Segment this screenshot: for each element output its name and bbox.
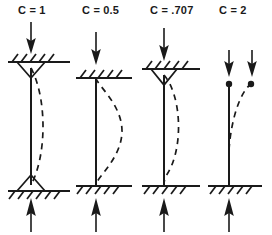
hatch-tick [116,70,122,78]
case-1-top-load-arrow [26,22,36,54]
hatch-tick [153,186,159,194]
case-1-bottom-support-pinned [8,175,70,199]
case-4-top-load-arrow [224,50,234,77]
figure-canvas: C = 1 [0,0,272,235]
hatch-tick [80,70,86,78]
hatch-tick [21,54,27,62]
hatch-tick [113,186,119,194]
column-buckling-figure: C = 1 [0,0,272,235]
hatch-tick [9,191,15,199]
hatch-tick [104,186,110,194]
hatch-tick [77,186,83,194]
case-4-displaced-load-arrow [247,50,257,77]
hatch-tick [228,186,234,194]
case-2-buckled-shape [96,78,122,185]
hatch-tick [98,70,104,78]
hatch-tick [107,70,113,78]
hatch-tick [12,54,18,62]
case-2-bottom-load-arrow [91,198,101,232]
hatch-tick [18,191,24,199]
hatch-tick [36,191,42,199]
hatch-tick [30,54,36,62]
hatch-tick [48,54,54,62]
hatch-tick [162,186,168,194]
hatch-tick [180,186,186,194]
case-3-bottom-support-fixed [142,186,200,194]
hatch-tick [27,191,33,199]
hatch-tick [144,186,150,194]
case-4-bottom-load-arrow [224,198,234,232]
case-3-buckled-shape [164,75,179,185]
hatch-tick [155,61,161,69]
case-1-bottom-load-arrow [26,198,36,232]
hatch-tick [171,186,177,194]
case-4-buckled-shape [229,84,251,150]
hatch-tick [182,61,188,69]
case-3-label: C = .707 [150,4,194,16]
hatch-tick [54,191,60,199]
hatch-tick [89,70,95,78]
case-1-top-support-pinned [8,54,70,78]
hatch-tick [39,54,45,62]
case-2-top-support-fixed [76,70,132,78]
case-2-bottom-support-fixed [76,186,132,194]
hatch-tick [173,61,179,69]
hatch-tick [219,186,225,194]
hatch-tick [164,61,170,69]
case-2-label: C = 0.5 [82,4,119,16]
case-3-group: C = .707 [142,4,200,232]
case-4-group: C = 2 [208,4,262,232]
hatch-tick [45,191,51,199]
hatch-tick [95,186,101,194]
hatch-tick [237,186,243,194]
case-1-label: C = 1 [18,4,46,16]
case-3-top-support-pinned [142,61,200,85]
case-1-buckled-shape [31,68,43,185]
case-2-top-load-arrow [91,32,101,65]
hatch-tick [246,186,252,194]
hatch-tick [146,61,152,69]
case-3-bottom-load-arrow [159,198,169,232]
case-4-label: C = 2 [219,4,247,16]
hatch-tick [86,186,92,194]
case-3-top-load-arrow [159,28,169,61]
hatch-tick [210,186,216,194]
case-2-group: C = 0.5 [76,4,132,232]
case-1-group: C = 1 [8,4,70,232]
case-4-bottom-support-fixed [208,186,262,194]
